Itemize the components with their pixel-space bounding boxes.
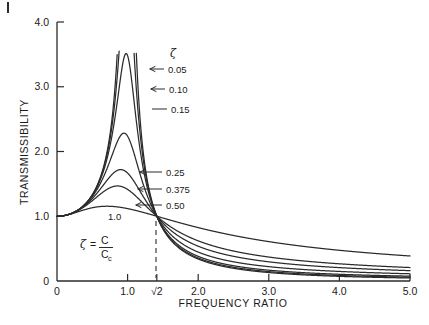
curve-zeta-0-05	[57, 53, 410, 278]
x-axis-title: FREQUENCY RATIO	[179, 297, 288, 309]
curve-label-1-0: 1.0	[108, 211, 121, 222]
y-axis-title: TRANSMISSIBILITY	[18, 99, 30, 205]
curve-zeta-0-10	[57, 51, 410, 277]
curve-label-0-05: 0.05	[168, 64, 187, 75]
chart-plot-area: 01.02.03.04.0 01.0√22.03.04.05.0 ζ 0.05 …	[0, 0, 429, 325]
x-tick-label-6: 5.0	[403, 285, 418, 297]
transmissibility-curves	[57, 51, 410, 278]
transmissibility-chart-figure: 01.02.03.04.0 01.0√22.03.04.05.0 ζ 0.05 …	[0, 0, 429, 325]
x-axis-tick-labels: 01.0√22.03.04.05.0	[54, 285, 417, 297]
curve-label-0-375: 0.375	[166, 184, 190, 195]
formula-zeta-symbol: ζ	[80, 238, 87, 251]
x-tick-label-0: 0	[54, 285, 60, 297]
curve-label-0-25: 0.25	[166, 167, 185, 178]
x-tick-label-5: 4.0	[332, 285, 347, 297]
x-tick-label-2: √2	[151, 285, 163, 297]
curve-zeta-0-15	[57, 54, 410, 277]
x-tick-label-4: 3.0	[261, 285, 276, 297]
y-tick-label-4: 4.0	[34, 16, 49, 28]
x-tick-label-3: 2.0	[191, 285, 206, 297]
zeta-legend-symbol: ζ	[170, 47, 177, 60]
x-tick-label-1: 1.0	[120, 285, 135, 297]
curve-label-0-10: 0.10	[169, 84, 188, 95]
curve-label-0-50: 0.50	[166, 200, 185, 211]
y-tick-label-0: 0	[43, 275, 49, 287]
y-tick-label-3: 3.0	[34, 80, 49, 92]
damping-ratio-formula: ζ = C C c	[80, 234, 113, 263]
y-axis-ticks	[57, 22, 64, 216]
page-margin-mark	[7, 2, 9, 13]
y-tick-label-2: 2.0	[34, 145, 49, 157]
curve-label-0-15: 0.15	[171, 104, 190, 115]
y-axis-tick-labels: 01.02.03.04.0	[34, 16, 49, 287]
curve-zeta-0-25	[57, 133, 410, 274]
formula-denominator-subscript: c	[108, 254, 112, 263]
formula-numerator: C	[101, 234, 109, 246]
formula-equals-sign: =	[90, 238, 96, 250]
y-tick-label-1: 1.0	[34, 210, 49, 222]
